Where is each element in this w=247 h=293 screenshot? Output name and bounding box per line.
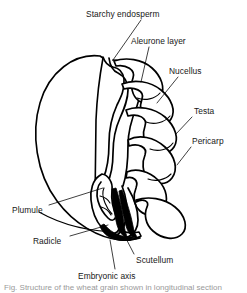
label-starchy-endosperm: Starchy endosperm [86,9,159,19]
endosperm-mass [103,57,128,184]
figure-caption-strip: Fig. Structure of the wheat grain shown … [0,284,247,293]
wheat-grain-figure: Starchy endosperm Aleurone layer Nucellu… [0,0,247,293]
figure-caption: Fig. Structure of the wheat grain shown … [4,284,222,292]
label-scutellum: Scutellum [136,255,173,265]
label-plumule: Plumule [12,205,43,215]
leader-embryonic-axis [110,240,115,269]
label-embryonic-axis: Embryonic axis [78,271,135,281]
label-pericarp: Pericarp [192,136,224,146]
label-aleurone-layer: Aleurone layer [131,36,186,46]
wheat-grain-diagram [0,0,247,293]
label-testa: Testa [194,106,214,116]
leader-testa [176,117,192,134]
leader-pericarp [177,147,191,165]
label-radicle: Radicle [33,236,61,246]
label-nucellus: Nucellus [169,66,202,76]
